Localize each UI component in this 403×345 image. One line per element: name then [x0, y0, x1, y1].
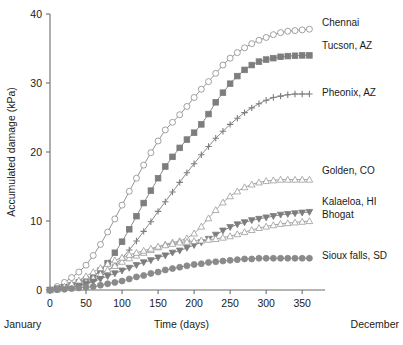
data-point	[249, 105, 255, 111]
axis-annotations: Time (days)JanuaryDecember	[4, 318, 400, 330]
data-point	[90, 253, 96, 259]
y-tick-label-10: 10	[30, 215, 42, 227]
chart-container: 010203040050100150200250300350Accumulate…	[0, 0, 403, 345]
data-point	[263, 255, 269, 261]
data-point	[119, 239, 125, 245]
data-point	[242, 67, 248, 73]
data-point	[61, 286, 67, 292]
data-point	[83, 284, 89, 290]
axes: 010203040050100150200250300350Accumulate…	[5, 8, 325, 309]
accumulated-damage-line-chart: 010203040050100150200250300350Accumulate…	[0, 0, 403, 345]
y-tick-label-20: 20	[30, 146, 42, 158]
data-point	[206, 259, 212, 265]
data-point	[227, 225, 234, 231]
data-point	[133, 263, 140, 269]
data-point	[213, 100, 219, 106]
data-point	[306, 255, 312, 261]
x-tick-label-300: 300	[257, 297, 275, 309]
x-tick-label-250: 250	[221, 297, 239, 309]
data-point	[285, 92, 291, 98]
data-point	[278, 54, 284, 60]
data-point	[169, 119, 175, 125]
data-point	[263, 97, 269, 103]
data-point	[140, 228, 146, 234]
series-line	[50, 55, 309, 290]
data-point	[234, 188, 241, 194]
x-tick-label-350: 350	[293, 297, 311, 309]
data-point	[169, 189, 175, 195]
series-layer	[47, 26, 313, 293]
data-point	[263, 34, 269, 40]
data-point	[47, 287, 53, 293]
data-point	[249, 62, 255, 68]
data-point	[278, 255, 284, 261]
legend-label-tucson-az: Tucson, AZ	[322, 40, 372, 51]
data-point	[292, 91, 298, 97]
data-point	[148, 188, 154, 194]
data-point	[277, 93, 283, 99]
data-point	[162, 198, 168, 204]
data-point	[133, 274, 139, 280]
data-point	[119, 202, 125, 208]
x-tick-label-150: 150	[149, 297, 167, 309]
data-point	[213, 259, 219, 265]
data-point	[191, 261, 197, 267]
data-point	[227, 81, 233, 87]
data-point	[256, 37, 262, 43]
data-point	[83, 262, 89, 268]
data-point	[90, 269, 97, 275]
data-point	[54, 287, 60, 293]
data-point	[162, 164, 168, 170]
data-point	[184, 137, 190, 143]
data-point	[306, 218, 313, 224]
data-point	[112, 279, 118, 285]
data-point	[141, 162, 147, 168]
data-point	[299, 255, 305, 261]
data-point	[184, 263, 190, 269]
data-point	[299, 27, 305, 33]
data-point	[234, 222, 241, 228]
data-point	[162, 267, 168, 273]
data-point	[148, 270, 154, 276]
data-point	[76, 285, 82, 291]
data-point	[278, 30, 284, 36]
data-point	[105, 229, 111, 235]
data-point	[97, 241, 103, 247]
data-point	[220, 258, 226, 264]
data-point	[227, 55, 233, 61]
data-point	[177, 145, 183, 151]
data-point	[69, 286, 75, 292]
data-point	[90, 284, 96, 290]
data-point	[256, 101, 262, 107]
legend-label-pheonix-az: Pheonix, AZ	[322, 87, 376, 98]
data-point	[97, 282, 103, 288]
data-point	[242, 256, 248, 262]
data-point	[126, 265, 133, 271]
data-point	[306, 26, 312, 32]
data-point	[184, 103, 190, 109]
data-point	[270, 94, 276, 100]
data-point	[299, 91, 305, 97]
data-point	[126, 276, 132, 282]
x-tick-label-200: 200	[185, 297, 203, 309]
data-point	[306, 91, 312, 97]
data-point	[177, 112, 183, 118]
data-point	[206, 111, 212, 117]
data-point	[256, 59, 262, 65]
data-point	[112, 271, 119, 277]
data-point	[177, 264, 183, 270]
data-point	[198, 86, 204, 92]
data-point	[141, 200, 147, 206]
data-point	[97, 276, 104, 282]
data-point	[227, 257, 233, 263]
data-point	[176, 179, 182, 185]
x-tick-label-0: 0	[47, 297, 53, 309]
data-point	[199, 122, 205, 128]
legend-label-kalaeloa-hi: Kalaeloa, HI	[322, 196, 376, 207]
data-point	[235, 73, 241, 79]
data-point	[198, 261, 204, 267]
data-point	[213, 70, 219, 76]
y-tick-label-0: 0	[36, 284, 42, 296]
data-point	[83, 273, 90, 279]
data-point	[292, 28, 298, 34]
